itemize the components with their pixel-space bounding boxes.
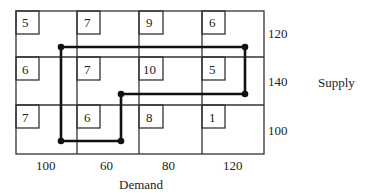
demand-col-1: 100: [36, 158, 56, 174]
supply-row-1: 120: [268, 26, 288, 42]
cost-r2c1: 6: [84, 110, 91, 126]
cost-r1c0: 6: [22, 62, 29, 78]
cost-r2c0: 7: [22, 110, 29, 126]
demand-col-2: 60: [100, 158, 113, 174]
cost-r2c2: 8: [146, 110, 153, 126]
supply-row-2: 140: [268, 74, 288, 90]
supply-label: Supply: [318, 75, 355, 91]
cost-r2c3: 1: [209, 110, 216, 126]
transportation-tableau: 5 7 9 6 6 7 10 5 7 6 8 1 120 140 100 Sup…: [0, 0, 367, 193]
demand-col-3: 80: [162, 158, 175, 174]
cost-r0c0: 5: [22, 15, 29, 31]
cost-r0c3: 6: [209, 15, 216, 31]
supply-row-3: 100: [268, 123, 288, 139]
cost-r0c1: 7: [84, 15, 91, 31]
demand-col-4: 120: [223, 158, 243, 174]
demand-label: Demand: [119, 177, 163, 193]
cost-r0c2: 9: [146, 15, 153, 31]
cost-r1c1: 7: [84, 62, 91, 78]
cost-r1c2: 10: [143, 62, 156, 78]
cost-r1c3: 5: [209, 62, 216, 78]
